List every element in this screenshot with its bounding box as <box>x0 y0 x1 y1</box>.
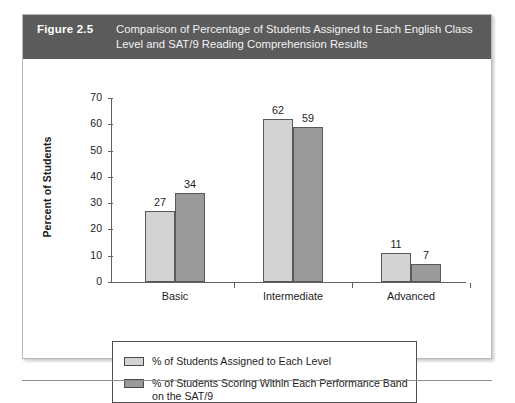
y-axis-tick <box>108 177 113 178</box>
y-axis-tick-label: 0 <box>70 275 102 287</box>
figure-number-label: Figure 2.5 <box>37 23 93 35</box>
bar-value-label: 59 <box>286 112 330 124</box>
page-bottom-rule <box>22 380 492 381</box>
bar <box>411 264 441 282</box>
y-axis-tick <box>108 282 113 283</box>
x-axis-category-label: Basic <box>110 290 240 302</box>
y-axis-title: Percent of Students <box>41 127 53 247</box>
y-axis-tick-label: 50 <box>70 144 102 156</box>
legend-label: % of Students Assigned to Each Level <box>152 355 420 368</box>
y-axis-tick <box>108 229 113 230</box>
y-axis-tick-label: 70 <box>70 91 102 103</box>
y-axis-tick <box>108 98 113 99</box>
figure-container: Figure 2.5 Comparison of Percentage of S… <box>22 14 492 359</box>
y-axis-tick-label: 20 <box>70 222 102 234</box>
y-axis-tick <box>108 124 113 125</box>
figure-caption-text: Comparison of Percentage of Students Ass… <box>116 22 481 51</box>
y-axis-tick <box>108 256 113 257</box>
x-axis-category-label: Intermediate <box>228 290 358 302</box>
x-axis-category-label: Advanced <box>346 290 476 302</box>
legend-swatch-light <box>124 357 144 366</box>
bar <box>145 211 175 282</box>
x-axis-tick <box>470 283 471 288</box>
y-axis-tick <box>108 203 113 204</box>
y-axis-tick <box>108 151 113 152</box>
bar-value-label: 7 <box>404 249 448 261</box>
y-axis-tick-label: 40 <box>70 170 102 182</box>
bar-value-label: 34 <box>168 178 212 190</box>
chart-plot-area: Percent of Students 010203040506070 2734… <box>23 59 491 358</box>
x-axis-line <box>111 282 466 283</box>
y-axis-tick-label: 60 <box>70 117 102 129</box>
chart-legend: % of Students Assigned to Each Level% of… <box>112 341 417 403</box>
bar <box>263 119 293 282</box>
bar <box>293 127 323 282</box>
x-axis-tick <box>352 283 353 288</box>
x-axis-tick <box>234 283 235 288</box>
figure-header-band: Figure 2.5 Comparison of Percentage of S… <box>23 15 491 59</box>
bar <box>175 193 205 282</box>
y-axis-tick-label: 30 <box>70 196 102 208</box>
y-axis-tick-label: 10 <box>70 249 102 261</box>
